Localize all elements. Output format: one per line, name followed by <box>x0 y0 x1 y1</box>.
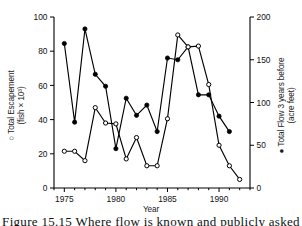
svg-text:150: 150 <box>257 55 271 65</box>
left-axis-title-line2: (fish × 10³) <box>16 46 26 166</box>
left-axis-title: ○ Total Escapement (fish × 10³) <box>7 46 26 166</box>
svg-text:1990: 1990 <box>210 194 229 204</box>
svg-text:80: 80 <box>38 46 48 56</box>
right-axis-title-line2: (acre feet) <box>286 46 296 166</box>
svg-text:1985: 1985 <box>158 194 177 204</box>
svg-text:20: 20 <box>38 149 48 159</box>
figure-container: 0204060801000501001502001975198019851990… <box>0 0 302 226</box>
x-axis-title: Year <box>0 205 302 214</box>
right-axis-title: ● Total Flow 3 years before (acre feet) <box>277 46 296 166</box>
right-axis-title-line1: ● Total Flow 3 years before <box>277 46 287 166</box>
figure-caption: Figure 15.15 Where flow is known and pub… <box>0 214 302 226</box>
svg-text:0: 0 <box>257 183 262 193</box>
svg-text:1975: 1975 <box>55 194 74 204</box>
svg-text:40: 40 <box>38 115 48 125</box>
svg-text:60: 60 <box>38 81 48 91</box>
left-axis-title-line1: ○ Total Escapement <box>7 46 17 166</box>
svg-text:100: 100 <box>34 12 48 22</box>
svg-text:200: 200 <box>257 12 271 22</box>
svg-text:50: 50 <box>257 140 267 150</box>
chart-plot-area: 0204060801000501001502001975198019851990 <box>0 0 302 226</box>
svg-text:0: 0 <box>43 183 48 193</box>
axis-tick-labels: 0204060801000501001502001975198019851990 <box>34 12 271 203</box>
svg-text:1980: 1980 <box>107 194 126 204</box>
svg-text:100: 100 <box>257 98 271 108</box>
series-total-flow <box>62 27 231 151</box>
